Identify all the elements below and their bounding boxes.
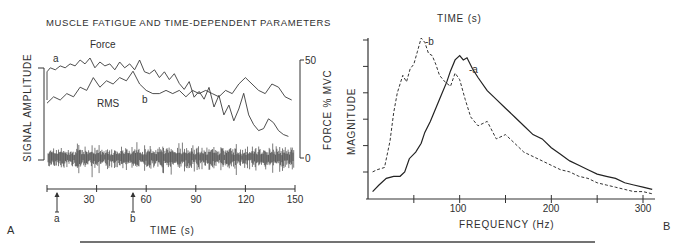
panel-a-title: MUSCLE FATIGUE AND TIME-DEPENDENT PARAME… <box>46 17 331 28</box>
time-tick-120: 120 <box>238 194 255 205</box>
time-tick-30: 30 <box>83 194 95 205</box>
time-tick-60: 60 <box>140 194 152 205</box>
rms-label: RMS <box>97 98 120 109</box>
force-label: Force <box>90 39 116 50</box>
freq-tick-200: 200 <box>543 203 560 214</box>
force-line <box>47 58 288 136</box>
curve-a-label: -a <box>469 64 478 75</box>
right-tick-0: 0 <box>305 153 311 164</box>
spectrum-a-line <box>373 56 653 192</box>
panel-b-title: TIME (s) <box>437 13 482 24</box>
rms-line <box>47 71 292 103</box>
signal-amplitude-label: SIGNAL AMPLITUDE <box>22 53 33 162</box>
right-bracket <box>300 60 304 158</box>
curve-b-label: -b <box>425 36 434 47</box>
marker-a-label: a <box>54 213 60 224</box>
panel-a-plot <box>47 58 294 177</box>
panel-a-letter: A <box>7 224 15 236</box>
marker-b-label: b <box>130 213 136 224</box>
marker-b-arrow <box>131 192 136 212</box>
magnitude-ticks <box>363 40 368 172</box>
raw-emg-signal <box>48 142 294 177</box>
freq-tick-300: 300 <box>635 203 652 214</box>
time-axis-label: TIME (s) <box>150 225 195 236</box>
force-mvc-label: FORCE % MVC <box>322 70 333 150</box>
left-bracket <box>38 68 44 160</box>
spectrum-b-line <box>373 38 653 194</box>
freq-tick-100: 100 <box>450 203 467 214</box>
time-tick-150: 150 <box>287 194 304 205</box>
marker-a-arrow <box>55 192 60 212</box>
right-tick-50: 50 <box>305 55 317 66</box>
panel-b-letter: B <box>663 220 670 232</box>
time-tick-90: 90 <box>190 194 202 205</box>
magnitude-label: MAGNITUDE <box>346 88 357 155</box>
mark-a-label: a <box>53 53 59 64</box>
frequency-axis-label: FREQUENCY (Hz) <box>459 219 554 230</box>
mark-b-label: b <box>142 94 148 105</box>
figure: MUSCLE FATIGUE AND TIME-DEPENDENT PARAME… <box>0 0 680 247</box>
panel-b-plot <box>373 38 653 194</box>
